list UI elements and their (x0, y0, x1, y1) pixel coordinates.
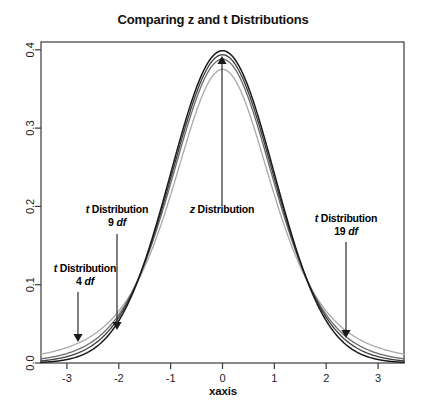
arrow-head-icon (73, 334, 82, 342)
annotation-label-line1: t Distribution (54, 262, 117, 274)
y-tick-label: 0.1 (24, 277, 36, 292)
y-tick-label: 0.2 (24, 199, 36, 214)
annotation-layer: z Distributiont Distribution4 dft Distri… (54, 56, 378, 342)
x-tick-label: 3 (375, 372, 381, 384)
x-tick-label: 1 (271, 372, 277, 384)
annotation-label-line2: 19 df (334, 225, 359, 237)
t-distribution-19df-annotation: t Distribution19 df (315, 212, 378, 338)
x-tick-label: 2 (323, 372, 329, 384)
z-distribution-annotation: z Distribution (189, 56, 254, 215)
x-tick-label: -2 (114, 372, 124, 384)
y-tick-label: 0.4 (24, 42, 36, 57)
chart-figure: Comparing z and t Distributions -3-2-101… (0, 0, 426, 418)
annotation-label-line1: t Distribution (315, 212, 378, 224)
annotation-label-line2: 9 df (108, 216, 128, 228)
x-tick-label: -3 (62, 372, 72, 384)
x-axis-title: xaxis (209, 385, 237, 397)
x-tick-label: 0 (219, 372, 225, 384)
distribution-plot: -3-2-101230.00.10.20.30.4 z Distribution… (0, 0, 426, 418)
annotation-label-line1: t Distribution (86, 203, 149, 215)
y-tick-label: 0.0 (24, 355, 36, 370)
annotation-label-line2: 4 df (76, 275, 96, 287)
y-tick-label: 0.3 (24, 120, 36, 135)
x-tick-label: -1 (166, 372, 176, 384)
